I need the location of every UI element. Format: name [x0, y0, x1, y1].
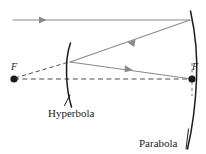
hyperbola-label: Hyperbola — [48, 108, 94, 119]
focus-right-dot — [188, 75, 195, 82]
ray-diagram-figure: F F Hyperbola Parabola — [0, 0, 206, 154]
focus-left-label: F — [11, 62, 17, 72]
diagram-canvas — [0, 0, 206, 154]
focus-right-label: F — [192, 62, 198, 72]
parabola-label: Parabola — [139, 138, 177, 149]
virtual-ray-dashed-line — [15, 62, 69, 78]
focus-left-dot — [10, 75, 17, 82]
incoming-ray-arrowhead-icon — [39, 17, 47, 24]
parabola-reflected-ray-line — [70, 20, 190, 62]
